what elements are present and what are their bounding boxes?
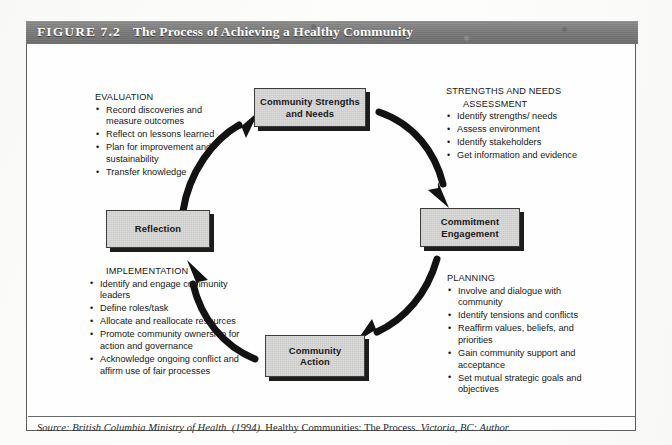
list-item: Get information and evidence (446, 150, 596, 162)
list-item: Identify and engage community leaders (89, 279, 247, 302)
list-item: Identify strengths/ needs (446, 111, 596, 123)
list-item: Gain community support and acceptance (447, 348, 603, 371)
figure-number-label: FIGURE 7.2 (37, 24, 121, 40)
source-place: Victoria, BC: Author. (421, 422, 511, 433)
arrow-commitment-to-action (356, 259, 437, 342)
page-background: FIGURE 7.2 The Process of Achieving a He… (0, 0, 672, 445)
source-prefix: Source: (37, 422, 70, 433)
block-evaluation-heading: EVALUATION (95, 92, 233, 104)
block-strengths-and-needs-assessment: STRENGTHS AND NEEDS ASSESSMENT Identify … (446, 86, 596, 164)
figure-panel: Community Strengthsand Needs CommitmentE… (26, 44, 636, 431)
block-evaluation-list: Record discoveries and measure outcomes … (95, 105, 233, 179)
list-item: Plan for improvement and sustainability (95, 142, 233, 165)
list-item: Acknowledge ongoing conflict and affirm … (89, 354, 247, 377)
source-divider (28, 416, 636, 417)
list-item: Promote community ownership for action a… (89, 329, 247, 352)
list-item: Reflect on lessons learned (95, 129, 233, 141)
node-strengths-label: Community Strengthsand Needs (260, 96, 360, 119)
node-action-label: CommunityAction (289, 345, 341, 368)
list-item: Involve and dialogue with community (447, 286, 603, 309)
list-item: Reaffirm values, beliefs, and priorities (447, 323, 603, 346)
source-publisher: British Columbia Ministry of Health. (72, 422, 229, 433)
figure-container: FIGURE 7.2 The Process of Achieving a He… (26, 21, 638, 433)
block-strengths-heading: STRENGTHS AND NEEDS (446, 86, 596, 98)
block-planning-heading: PLANNING (447, 273, 603, 285)
node-commitment-label: CommitmentEngagement (441, 216, 499, 239)
list-item: Define roles/task (89, 303, 247, 315)
figure-title-bar: FIGURE 7.2 The Process of Achieving a He… (26, 21, 638, 44)
list-item: Allocate and reallocate resources (89, 316, 247, 328)
list-item: Assess environment (446, 124, 596, 136)
block-evaluation: EVALUATION Record discoveries and measur… (95, 92, 233, 180)
block-implementation-list: Identify and engage community leaders De… (89, 279, 247, 378)
arrow-strengths-to-commitment (379, 112, 449, 208)
list-item: Transfer knowledge (95, 167, 233, 179)
source-year: (1994). (232, 422, 263, 433)
list-item: Record discoveries and measure outcomes (95, 105, 233, 128)
figure-caption: The Process of Achieving a Healthy Commu… (133, 24, 413, 40)
node-community-action[interactable]: CommunityAction (265, 335, 365, 377)
list-item: Identify tensions and conflicts (447, 310, 603, 322)
node-commitment-engagement[interactable]: CommitmentEngagement (420, 208, 520, 247)
block-planning: PLANNING Involve and dialogue with commu… (447, 273, 603, 397)
node-community-strengths-and-needs[interactable]: Community Strengthsand Needs (254, 88, 366, 127)
block-strengths-list: Identify strengths/ needs Assess environ… (446, 111, 596, 162)
block-planning-list: Involve and dialogue with community Iden… (447, 286, 603, 396)
source-citation: Source: British Columbia Ministry of Hea… (37, 422, 629, 433)
block-implementation-heading: IMPLEMENTATION (106, 266, 247, 278)
node-reflection[interactable]: Reflection (106, 210, 210, 248)
block-strengths-heading-line2: ASSESSMENT (463, 99, 596, 111)
node-reflection-label: Reflection (135, 223, 181, 234)
block-implementation: IMPLEMENTATION Identify and engage commu… (89, 266, 247, 379)
list-item: Identify stakeholders (446, 137, 596, 149)
source-work: Healthy Communities: The Process. (265, 422, 418, 433)
list-item: Set mutual strategic goals and objective… (447, 373, 603, 396)
